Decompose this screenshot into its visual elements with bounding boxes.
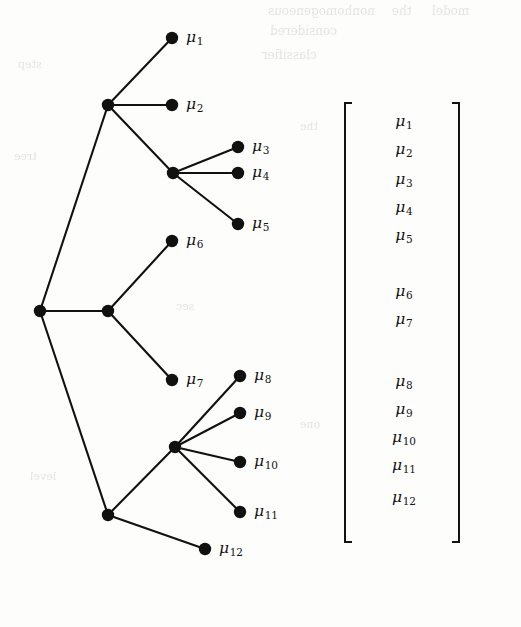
tree-edge-internal-node-b-to-mu6: [108, 241, 172, 311]
bracket-entry-mu6: μ6: [395, 282, 412, 301]
leaf-subscript-mu9: 9: [265, 410, 272, 422]
leaf-symbol-mu11: μ: [254, 502, 264, 520]
tree-edge-internal-node-d-to-mu3: [173, 147, 238, 173]
entry-subscript-mu9: 9: [406, 407, 413, 419]
tree-edge-internal-node-c-to-internal-node-e: [108, 447, 175, 515]
bracket-entry-mu10: μ10: [392, 428, 416, 447]
leaf-subscript-mu12: 12: [230, 546, 243, 558]
tree-edge-root-node-to-internal-node-a: [40, 105, 108, 311]
tree-node-internal-node-c[interactable]: [102, 509, 114, 521]
tree-leaf-label-mu6: μ6: [186, 231, 203, 250]
tree-node-internal-node-b[interactable]: [102, 305, 114, 317]
entry-subscript-mu3: 3: [406, 177, 413, 189]
leaf-symbol-mu10: μ: [254, 452, 264, 470]
tree-node-mu3[interactable]: [232, 141, 244, 153]
entry-subscript-mu10: 10: [403, 435, 416, 447]
tree-edge-internal-node-c-to-mu12: [108, 515, 205, 549]
entry-symbol-mu6: μ: [395, 282, 405, 300]
tree-node-mu7[interactable]: [166, 374, 178, 386]
leaf-symbol-mu7: μ: [186, 370, 196, 388]
entry-subscript-mu5: 5: [406, 233, 413, 245]
tree-edge-internal-node-e-to-mu11: [175, 447, 240, 512]
tree-edge-internal-node-e-to-mu9: [175, 413, 240, 447]
tree-node-mu9[interactable]: [234, 407, 246, 419]
entry-symbol-mu10: μ: [392, 428, 402, 446]
tree-node-root-node[interactable]: [34, 305, 46, 317]
entry-subscript-mu7: 7: [406, 317, 413, 329]
tree-node-internal-node-e[interactable]: [169, 441, 181, 453]
tree-node-internal-node-d[interactable]: [167, 167, 179, 179]
entry-symbol-mu11: μ: [392, 456, 402, 474]
bracket-entry-mu1: μ1: [395, 112, 412, 131]
bracket-entry-mu11: μ11: [392, 456, 416, 475]
tree-leaf-label-mu1: μ1: [186, 28, 203, 47]
entry-symbol-mu5: μ: [395, 226, 405, 244]
tree-leaf-label-mu12: μ12: [219, 539, 243, 558]
bracket-entry-mu9: μ9: [395, 400, 412, 419]
bracket-entry-mu4: μ4: [395, 198, 412, 217]
leaf-subscript-mu5: 5: [263, 221, 270, 233]
tree-node-mu1[interactable]: [166, 32, 178, 44]
tree-edge-internal-node-d-to-mu5: [173, 173, 238, 224]
tree-edge-internal-node-a-to-mu1: [108, 38, 172, 105]
tree-node-mu2[interactable]: [166, 99, 178, 111]
tree-node-mu4[interactable]: [232, 167, 244, 179]
entry-symbol-mu9: μ: [395, 400, 405, 418]
leaf-symbol-mu12: μ: [219, 539, 229, 557]
entry-subscript-mu11: 11: [403, 463, 416, 475]
tree-node-mu12[interactable]: [199, 543, 211, 555]
tree-edge-internal-node-e-to-mu10: [175, 447, 240, 462]
leaf-symbol-mu2: μ: [186, 95, 196, 113]
bracket-entry-mu12: μ12: [392, 488, 416, 507]
bracket-entry-mu3: μ3: [395, 170, 412, 189]
tree-node-mu8[interactable]: [234, 370, 246, 382]
tree-edge-internal-node-a-to-internal-node-d: [108, 105, 173, 173]
tree-leaf-label-mu2: μ2: [186, 95, 203, 114]
entry-subscript-mu12: 12: [403, 495, 416, 507]
tree-leaf-label-mu9: μ9: [254, 403, 271, 422]
leaf-subscript-mu1: 1: [197, 35, 204, 47]
leaf-symbol-mu5: μ: [252, 214, 262, 232]
leaf-subscript-mu8: 8: [265, 373, 272, 385]
leaf-subscript-mu4: 4: [263, 170, 270, 182]
entry-symbol-mu8: μ: [395, 372, 405, 390]
leaf-subscript-mu10: 10: [265, 459, 278, 471]
tree-edge-group: [40, 38, 240, 549]
tree-leaf-label-mu3: μ3: [252, 137, 269, 156]
tree-edge-internal-node-b-to-mu7: [108, 311, 172, 380]
leaf-subscript-mu2: 2: [197, 102, 204, 114]
entry-subscript-mu2: 2: [406, 147, 413, 159]
leaf-symbol-mu3: μ: [252, 137, 262, 155]
leaf-symbol-mu6: μ: [186, 231, 196, 249]
leaf-subscript-mu3: 3: [263, 144, 270, 156]
tree-leaf-label-mu10: μ10: [254, 452, 278, 471]
tree-leaf-label-mu8: μ8: [254, 366, 271, 385]
entry-symbol-mu7: μ: [395, 310, 405, 328]
tree-leaf-label-mu5: μ5: [252, 214, 269, 233]
entry-subscript-mu8: 8: [406, 379, 413, 391]
tree-node-mu10[interactable]: [234, 456, 246, 468]
bracket-entry-mu2: μ2: [395, 140, 412, 159]
bracket-entry-mu7: μ7: [395, 310, 412, 329]
tree-node-mu11[interactable]: [234, 506, 246, 518]
entry-symbol-mu3: μ: [395, 170, 405, 188]
tree-leaf-label-mu11: μ11: [254, 502, 278, 521]
figure-root: nonhomogeneousthemodelconsideredclassifi…: [0, 0, 521, 627]
entry-symbol-mu12: μ: [392, 488, 402, 506]
tree-edge-root-node-to-internal-node-c: [40, 311, 108, 515]
leaf-subscript-mu7: 7: [197, 377, 204, 389]
tree-leaf-label-mu4: μ4: [252, 163, 269, 182]
entry-subscript-mu1: 1: [406, 119, 413, 131]
leaf-subscript-mu6: 6: [197, 238, 204, 250]
tree-node-mu5[interactable]: [232, 218, 244, 230]
tree-node-mu6[interactable]: [166, 235, 178, 247]
entry-symbol-mu4: μ: [395, 198, 405, 216]
tree-node-group: [34, 32, 246, 555]
entry-subscript-mu6: 6: [406, 289, 413, 301]
entry-symbol-mu1: μ: [395, 112, 405, 130]
entry-subscript-mu4: 4: [406, 205, 413, 217]
tree-node-internal-node-a[interactable]: [102, 99, 114, 111]
tree-edge-internal-node-e-to-mu8: [175, 376, 240, 447]
leaf-symbol-mu4: μ: [252, 163, 262, 181]
entry-symbol-mu2: μ: [395, 140, 405, 158]
